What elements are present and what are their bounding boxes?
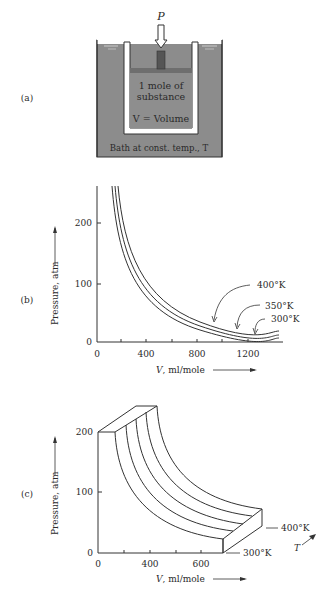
- surface-isotherm-3: [136, 419, 243, 524]
- surface-end-face: [223, 509, 262, 553]
- y-tick-200: 200: [75, 218, 92, 228]
- y-arrow-icon: [53, 226, 57, 233]
- panel-a-apparatus: P 1 mole of substance V = Volume Bath at…: [0, 0, 329, 165]
- c-y-tick-200: 200: [76, 427, 93, 437]
- substance-text-1: 1 mole of: [139, 80, 185, 91]
- leader-400K: [214, 285, 250, 320]
- curve-label-300K: 300°K: [271, 314, 300, 324]
- c-y-tick-0: 0: [87, 548, 93, 558]
- volume-text: V = Volume: [132, 113, 190, 124]
- surface-isotherm-2: [126, 425, 233, 531]
- panel-label-a: (a): [21, 93, 33, 103]
- y-tick-100: 100: [75, 279, 92, 289]
- c-x-tick-600: 600: [192, 559, 209, 569]
- panel-label-c: (c): [21, 489, 33, 499]
- x-tick-0: 0: [94, 349, 100, 359]
- isotherm-400K: [118, 186, 279, 335]
- substance-text-2: substance: [137, 91, 186, 102]
- curve-label-400K: 400°K: [257, 280, 286, 290]
- isotherm-300K: [112, 186, 279, 342]
- c-y-tick-100: 100: [76, 487, 93, 497]
- x-arrow-icon: [250, 368, 257, 372]
- c-x-tick-400: 400: [141, 559, 158, 569]
- curve-label-350K: 350°K: [265, 301, 294, 311]
- t-arrow-icon: [309, 534, 316, 540]
- y-arrow-icon-c: [53, 436, 57, 443]
- apparatus-diagram: P 1 mole of substance V = Volume Bath at…: [0, 0, 329, 165]
- pressure-symbol: P: [156, 10, 165, 23]
- y-tick-0: 0: [86, 337, 92, 347]
- x-axis-label-c: V, ml/mole: [156, 574, 205, 584]
- t-label-400K: 400°K: [281, 523, 310, 533]
- panel-label-b: (b): [21, 295, 34, 305]
- y-axis-label-c: Pressure, atm: [50, 471, 60, 535]
- c-x-tick-0: 0: [95, 559, 101, 569]
- x-axis-label-b: V, ml/mole: [156, 365, 205, 375]
- x-tick-800: 800: [188, 349, 205, 359]
- t-label-300K: 300°K: [243, 548, 272, 558]
- isotherm-350K: [115, 186, 279, 338]
- surface-top-face: [98, 406, 157, 432]
- x-arrow-icon-c: [240, 577, 247, 581]
- surface-isotherm-4: [146, 412, 252, 516]
- x-tick-1200: 1200: [237, 349, 260, 359]
- panel-c-surface: 200 100 0 0 400 600 400°K 300°K T: [21, 406, 316, 584]
- bath-text: Bath at const. temp., T: [110, 143, 209, 153]
- y-axis-label-b: Pressure, atm: [50, 261, 60, 325]
- x-tick-400: 400: [137, 349, 154, 359]
- surface-isotherm-400K: [157, 406, 262, 509]
- piston-rod: [157, 51, 165, 69]
- leader-300K: [255, 319, 265, 332]
- surface-isotherm-300K: [115, 432, 223, 539]
- leader-350K: [237, 305, 260, 327]
- t-axis-label: T: [294, 543, 301, 553]
